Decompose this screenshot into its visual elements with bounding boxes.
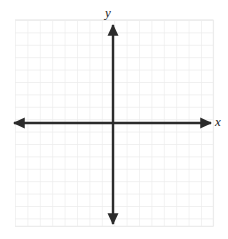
coordinate-plane-figure: y x — [0, 0, 228, 239]
x-axis-label: x — [215, 115, 221, 128]
y-axis-label: y — [105, 6, 111, 19]
coordinate-plane-svg — [0, 0, 228, 239]
